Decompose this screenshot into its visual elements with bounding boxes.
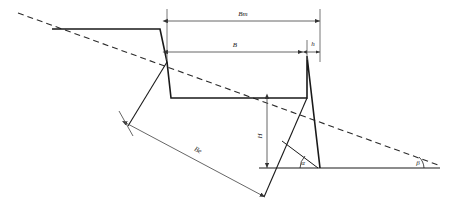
face-angle-ray	[282, 141, 318, 168]
inner-face-line	[264, 98, 307, 197]
diagram-canvas: Bm B h H Be α β	[0, 0, 456, 222]
extension-tick-be-start	[119, 111, 133, 136]
bench-width-label: B	[233, 41, 238, 49]
overall-extent-dimension-line	[126, 123, 265, 197]
berm-width-label: Bm	[238, 10, 247, 18]
slope-angle-arc	[419, 157, 424, 168]
face-angle-label: α	[301, 159, 305, 167]
slope-angle-label: β	[415, 159, 420, 167]
overall-extent-label: Be	[193, 145, 203, 156]
left-bench-face-line	[128, 62, 167, 126]
crest-offset-label: h	[311, 40, 315, 48]
overall-slope-dashed-line	[18, 13, 441, 166]
cross-section-diagram: Bm B h H Be α β	[0, 0, 456, 222]
bench-height-label: H	[256, 133, 264, 140]
bench-profile-line	[52, 29, 320, 168]
